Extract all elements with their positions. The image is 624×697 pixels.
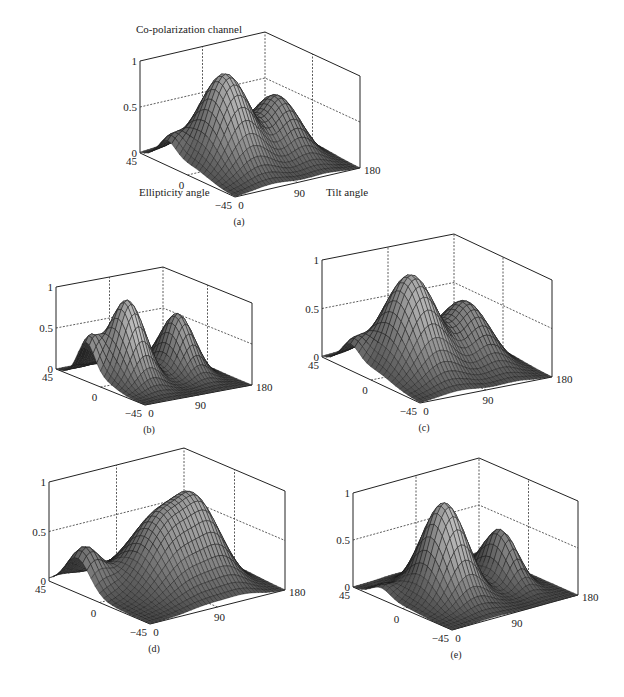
ellipticity-axis-label: Ellipticity angle <box>139 186 210 198</box>
subplot-caption: (d) <box>148 643 160 655</box>
ellipticity-tick-label: 0 <box>91 607 97 619</box>
box-top-edge <box>140 32 360 76</box>
ellipticity-tick-label: 0 <box>394 613 400 625</box>
ellipticity-tick-label: 0 <box>362 384 368 396</box>
subplot-caption: (b) <box>143 424 155 436</box>
tilt-tick-label: 90 <box>214 611 226 623</box>
ellipticity-tick-label: 45 <box>42 371 54 383</box>
tilt-tick-label: 0 <box>423 405 429 417</box>
tilt-tick-label: 0 <box>153 626 159 638</box>
ellipticity-tick-label: 45 <box>308 359 320 371</box>
subplot-e: 00.51450−45090180(e) <box>336 458 599 661</box>
z-tick-label: 1 <box>132 55 138 67</box>
tilt-tick-label: 180 <box>556 373 573 385</box>
box-top-edge <box>353 458 578 501</box>
tilt-tick-label: 90 <box>195 399 207 411</box>
tilt-tick-label: 0 <box>455 632 461 644</box>
subplot-b: 00.51450−45090180(b) <box>39 267 273 436</box>
z-tick-label: 0.5 <box>32 526 46 538</box>
ellipticity-tick-label: −45 <box>130 626 148 638</box>
tilt-tick-label: 90 <box>483 394 495 406</box>
z-tick-label: 1 <box>48 281 54 293</box>
tilt-tick-label: 90 <box>512 617 524 629</box>
ellipticity-tick-label: 0 <box>92 391 98 403</box>
subplot-caption: (c) <box>418 422 429 434</box>
subplot-caption: (e) <box>450 649 461 661</box>
tilt-tick-label: 90 <box>294 187 306 199</box>
z-tick-label: 0.5 <box>336 534 350 546</box>
z-tick-label: 0.5 <box>123 101 137 113</box>
subplot-caption: (a) <box>233 216 244 228</box>
box-top-edge <box>49 448 285 491</box>
z-tick-label: 1 <box>345 487 351 499</box>
z-tick-label: 1 <box>41 476 47 488</box>
tilt-tick-label: 180 <box>256 381 273 393</box>
ellipticity-tick-label: 45 <box>126 155 138 167</box>
figure-title: Co-polarization channel <box>136 23 242 35</box>
ellipticity-tick-label: −45 <box>215 199 233 211</box>
tilt-tick-label: 180 <box>582 591 599 603</box>
subplot-c: 00.51450−45090180(c) <box>305 234 573 434</box>
tilt-tick-label: 180 <box>289 586 306 598</box>
ellipticity-tick-label: −45 <box>125 407 143 419</box>
ellipticity-tick-label: 0 <box>179 179 185 191</box>
box-top-edge <box>322 234 552 280</box>
grid-z-half <box>56 308 252 344</box>
z-tick-label: 0.5 <box>39 322 53 334</box>
z-tick-label: 1 <box>314 254 320 266</box>
tilt-axis-label: Tilt angle <box>326 186 368 198</box>
ellipticity-tick-label: 45 <box>35 583 47 595</box>
ellipticity-tick-label: −45 <box>400 405 418 417</box>
subplot-a: 00.51450−45090180(a) <box>123 32 381 228</box>
tilt-tick-label: 0 <box>148 407 154 419</box>
z-tick-label: 0.5 <box>305 303 319 315</box>
tilt-tick-label: 0 <box>238 199 244 211</box>
subplot-d: 00.51450−45090180(d) <box>32 448 306 655</box>
figure-canvas: Co-polarization channel Ellipticity angl… <box>0 0 624 697</box>
box-top-edge <box>56 267 252 303</box>
tilt-tick-label: 180 <box>364 164 381 176</box>
ellipticity-tick-label: 45 <box>339 589 351 601</box>
ellipticity-tick-label: −45 <box>432 632 450 644</box>
